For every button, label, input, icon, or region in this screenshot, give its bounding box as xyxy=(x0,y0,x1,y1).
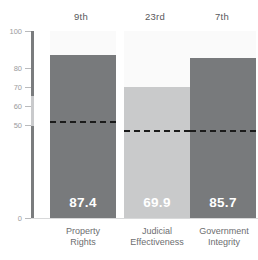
bar-property-rights[interactable]: 87.4 xyxy=(50,55,116,218)
y-tick-label-60: 60 xyxy=(0,102,22,111)
y-tick-mark-70 xyxy=(25,87,31,88)
bar-judicial-effectiveness[interactable]: 69.9 xyxy=(124,87,190,218)
category-label-government-integrity-line2: Integrity xyxy=(181,237,258,248)
reference-line-property-rights xyxy=(50,121,116,123)
x-axis-baseline xyxy=(31,218,258,219)
reference-line-government-integrity xyxy=(190,130,256,132)
y-axis-line-highlight xyxy=(31,96,34,126)
bar-value-property-rights: 87.4 xyxy=(50,195,116,210)
y-tick-label-80: 80 xyxy=(0,64,22,73)
y-tick-mark-50 xyxy=(25,125,31,126)
bar-value-judicial-effectiveness: 69.9 xyxy=(124,195,190,210)
bar-value-government-integrity: 85.7 xyxy=(190,195,256,210)
y-tick-mark-100 xyxy=(25,31,31,32)
y-tick-mark-60 xyxy=(25,106,31,107)
y-tick-label-70: 70 xyxy=(0,83,22,92)
y-tick-label-100: 100 xyxy=(0,27,22,36)
plot-area: 100 80 70 60 50 0 87.4 69.9 85.7 xyxy=(0,0,258,260)
category-label-government-integrity: Government Integrity xyxy=(181,226,258,248)
y-tick-mark-0 xyxy=(25,218,31,219)
reference-line-judicial-effectiveness xyxy=(124,130,190,132)
y-tick-label-50: 50 xyxy=(0,121,22,130)
rule-of-law-bar-chart: 9th 23rd 7th 100 80 70 60 50 0 87.4 69.9 xyxy=(0,0,258,260)
bar-government-integrity[interactable]: 85.7 xyxy=(190,58,256,218)
y-tick-mark-80 xyxy=(25,68,31,69)
y-tick-label-0: 0 xyxy=(0,214,22,223)
category-label-government-integrity-line1: Government xyxy=(181,226,258,237)
